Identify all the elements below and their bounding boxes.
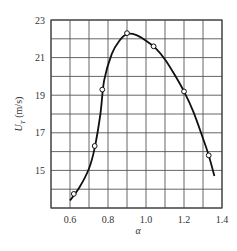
- data-point-marker: [92, 144, 97, 149]
- fitted-curve: [70, 34, 214, 201]
- y-tick-label: 17: [35, 127, 45, 138]
- x-tick-label: 0.8: [102, 214, 115, 225]
- data-point-marker: [125, 31, 130, 36]
- chart: 1517192123 0.60.81.01.21.4 α UT (m/s): [0, 0, 237, 251]
- y-tick-label: 21: [35, 52, 45, 63]
- x-tick-label: 0.6: [64, 214, 77, 225]
- svg-text:UT (m/s): UT (m/s): [13, 97, 27, 132]
- y-axis-unit: (m/s): [13, 97, 25, 121]
- data-point-marker: [182, 89, 187, 94]
- grid: [51, 20, 222, 208]
- data-points: [71, 31, 211, 197]
- x-tick-label: 1.0: [140, 214, 153, 225]
- x-tick-label: 1.2: [178, 214, 191, 225]
- data-point-marker: [151, 44, 156, 49]
- x-tick-labels: 0.60.81.01.21.4: [64, 214, 229, 225]
- x-axis-label: α: [135, 225, 141, 236]
- y-tick-label: 15: [35, 165, 45, 176]
- data-point-marker: [71, 192, 76, 197]
- data-point-marker: [100, 87, 105, 92]
- data-point-marker: [206, 153, 211, 158]
- y-tick-label: 19: [35, 90, 45, 101]
- y-tick-labels: 1517192123: [35, 15, 45, 176]
- x-tick-label: 1.4: [216, 214, 229, 225]
- y-tick-label: 23: [35, 15, 45, 26]
- y-axis-label: UT (m/s): [13, 97, 27, 132]
